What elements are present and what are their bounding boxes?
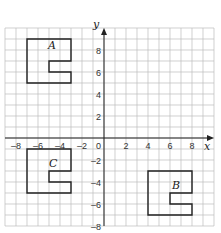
svg-text:–8: –8: [11, 141, 21, 151]
svg-text:2: 2: [96, 112, 101, 122]
svg-text:4: 4: [145, 141, 150, 151]
svg-text:2: 2: [123, 141, 128, 151]
shape-label-b: B: [171, 179, 180, 192]
svg-text:6: 6: [96, 68, 101, 78]
shape-label-a: A: [47, 39, 56, 52]
svg-text:6: 6: [167, 141, 172, 151]
svg-text:8: 8: [96, 46, 101, 56]
svg-text:0: 0: [96, 141, 101, 151]
svg-text:–2: –2: [91, 156, 101, 166]
shape-label-c: C: [49, 157, 58, 170]
x-axis-label: x: [204, 140, 211, 153]
y-axis-label: y: [92, 18, 100, 31]
svg-text:–6: –6: [33, 141, 43, 151]
grid-lines: [5, 28, 214, 226]
svg-text:8: 8: [189, 141, 194, 151]
svg-text:–2: –2: [77, 141, 87, 151]
svg-text:–4: –4: [55, 141, 65, 151]
svg-text:–4: –4: [91, 178, 101, 188]
coordinate-plane: –8–6–4–2246886420–2–4–6–8 x y A B C: [0, 0, 221, 233]
svg-text:4: 4: [96, 90, 101, 100]
svg-text:–8: –8: [91, 222, 101, 232]
svg-text:–6: –6: [91, 200, 101, 210]
